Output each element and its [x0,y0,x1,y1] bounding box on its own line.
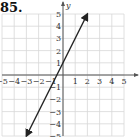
y-axis-label: y [65,1,71,10]
y-tick-label: 5 [56,10,61,19]
x-tick-label: 1 [73,77,78,86]
y-tick-label: −4 [49,120,61,129]
problem-number: 85. [0,0,23,15]
y-tick-label: 3 [56,34,61,43]
x-tick-label: 2 [85,77,90,86]
x-tick-label: −3 [21,77,33,86]
coordinate-plane: 85. y −5−4−3−2−112345−5−4−3−2−112345 [0,0,140,137]
x-tick-label: −4 [8,77,20,86]
x-tick-label: 4 [109,77,114,86]
x-tick-label: −5 [0,77,8,86]
y-tick-label: −3 [49,108,61,117]
y-tick-label: −2 [49,95,61,104]
x-tick-label: −2 [33,77,45,86]
x-tick-label: 5 [121,77,126,86]
y-tick-label: −5 [49,132,61,137]
x-tick-label: 3 [97,77,102,86]
axes: y [2,1,138,136]
y-tick-label: 1 [56,59,61,68]
graph-figure: 85. y −5−4−3−2−112345−5−4−3−2−112345 [0,0,140,137]
y-tick-label: 2 [56,47,61,56]
y-tick-label: 4 [56,22,61,31]
